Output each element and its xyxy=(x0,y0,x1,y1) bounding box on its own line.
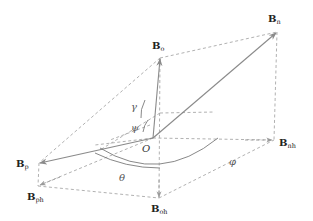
vector-diagram: Bn Bo Bp Bnh Bph Boh O γ ψ φ θ xyxy=(0,0,313,221)
dash-bph-boh xyxy=(38,186,159,198)
dash-inner-2 xyxy=(100,113,160,150)
projection-arrows xyxy=(40,140,272,197)
label-psi: ψ xyxy=(131,122,139,133)
label-bp: Bp xyxy=(16,158,29,171)
dash-bo-boh xyxy=(159,58,160,198)
dash-inner-1 xyxy=(160,112,215,113)
label-boh: Boh xyxy=(151,203,168,216)
construction-lines xyxy=(38,32,277,198)
vector-bp xyxy=(40,138,153,163)
dash-bo-bn xyxy=(160,32,277,58)
vector-bo xyxy=(153,59,160,138)
diagram-svg: Bn Bo Bp Bnh Bph Boh O γ ψ φ θ xyxy=(0,0,313,221)
label-phi: φ xyxy=(229,156,236,167)
angle-arcs xyxy=(95,100,218,168)
dash-bp-bph xyxy=(38,163,39,186)
dash-boh-bnh xyxy=(159,140,274,198)
label-bnh: Bnh xyxy=(279,137,296,150)
dash-bn-bnh xyxy=(274,32,277,140)
label-bn: Bn xyxy=(268,13,281,26)
label-theta: θ xyxy=(119,172,125,183)
label-bo: Bo xyxy=(152,40,164,53)
label-bph: Bph xyxy=(27,191,44,204)
label-origin: O xyxy=(142,143,150,154)
label-gamma: γ xyxy=(131,101,137,112)
vector-bn xyxy=(153,33,276,138)
arc-gamma xyxy=(141,100,145,118)
vectors xyxy=(40,33,276,163)
dash-o-bnh xyxy=(153,138,272,140)
